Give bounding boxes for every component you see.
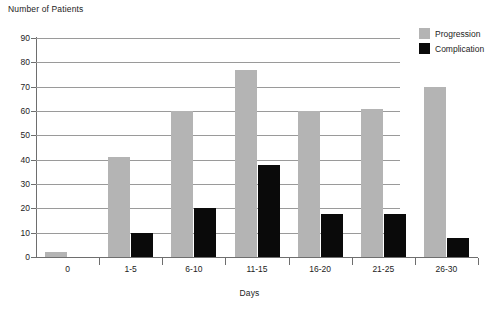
gridline-80	[36, 62, 400, 63]
gridline-20	[36, 208, 400, 209]
x-tick-label-0: 0	[36, 264, 99, 275]
gridline-10	[36, 233, 400, 234]
gridline-60	[36, 111, 400, 112]
chart-legend: Progression Complication	[419, 26, 484, 56]
bar-complication-6-10	[194, 208, 216, 257]
bar-progression-0	[45, 252, 67, 257]
y-tick-label-90: 90	[4, 34, 30, 43]
bar-progression-6-10	[171, 111, 193, 257]
y-tick-label-30: 30	[4, 180, 30, 189]
y-tick-label-10: 10	[4, 229, 30, 238]
y-tick-label-60: 60	[4, 107, 30, 116]
legend-label-progression: Progression	[435, 29, 480, 39]
legend-swatch-progression	[419, 28, 430, 39]
y-tick-label-40: 40	[4, 156, 30, 165]
y-tick-label-70: 70	[4, 83, 30, 92]
x-tick-label-11-15: 11-15	[225, 264, 288, 275]
x-separator-tick	[478, 258, 479, 265]
bar-complication-21-25	[384, 214, 406, 257]
x-tick-label-21-25: 21-25	[352, 264, 415, 275]
x-tick-label-26-30: 26-30	[415, 264, 478, 275]
y-tick-label-50: 50	[4, 131, 30, 140]
x-tick-label-16-20: 16-20	[289, 264, 352, 275]
bar-progression-26-30	[424, 87, 446, 257]
y-tick-label-80: 80	[4, 58, 30, 67]
y-tick-label-20: 20	[4, 204, 30, 213]
gridline-0	[36, 257, 478, 258]
gridline-90	[36, 38, 400, 39]
bar-progression-1-5	[108, 157, 130, 257]
bar-progression-16-20	[298, 111, 320, 257]
bar-complication-26-30	[447, 238, 469, 257]
bar-complication-11-15	[258, 165, 280, 257]
x-tick-label-6-10: 6-10	[162, 264, 225, 275]
x-tick-label-1-5: 1-5	[99, 264, 162, 275]
gridline-50	[36, 135, 400, 136]
y-tick-label-0: 0	[4, 253, 30, 262]
gridline-70	[36, 87, 400, 88]
bar-complication-1-5	[131, 233, 153, 257]
bar-complication-16-20	[321, 214, 343, 257]
legend-label-complication: Complication	[435, 44, 484, 54]
gridline-40	[36, 160, 400, 161]
plot-area	[36, 38, 478, 257]
bar-chart: Number of Patients 0102030405060708090 0…	[0, 0, 499, 313]
y-axis-title: Number of Patients	[8, 4, 83, 14]
legend-swatch-complication	[419, 43, 430, 54]
x-axis-title: Days	[0, 288, 499, 298]
bar-progression-21-25	[361, 109, 383, 257]
legend-item-progression: Progression	[419, 26, 484, 41]
bar-progression-11-15	[235, 70, 257, 257]
legend-item-complication: Complication	[419, 41, 484, 56]
gridline-30	[36, 184, 400, 185]
